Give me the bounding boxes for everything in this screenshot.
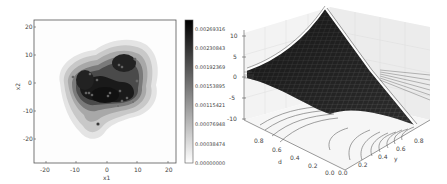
- z-tick-label: -5: [229, 94, 235, 101]
- colorbar-tick-label: 0.00076948: [195, 121, 225, 127]
- colorbar-tick-label: 0.00153895: [195, 83, 225, 89]
- colorbar: [185, 20, 193, 163]
- y-tick-label: 10: [25, 51, 33, 58]
- x-axis-label: x1: [103, 174, 110, 181]
- density-plot: -20 -10 0 10 20 x1 20 10 0 -10 -20 x2 0.…: [0, 0, 230, 184]
- d-tick-label: 0.6: [272, 146, 282, 153]
- y-axis-label: y: [394, 155, 398, 162]
- x-tick-label: 10: [134, 166, 142, 173]
- colorbar-tick-label: 0.00038474: [195, 141, 225, 147]
- d-tick-label: 0.2: [308, 162, 318, 169]
- surface-plot-canvas: [230, 0, 447, 184]
- x-tick-label: -10: [70, 166, 80, 173]
- x-tick-label: 0: [105, 166, 109, 173]
- y-tick-label: 20: [25, 23, 33, 30]
- z-tick-label: -10: [227, 115, 237, 122]
- y-tick-label: 0.4: [378, 153, 388, 160]
- z-tick-label: 0: [233, 73, 237, 80]
- d-axis-label: d: [278, 158, 282, 165]
- y-tick-label: 0.8: [414, 137, 424, 144]
- colorbar-tick-label: 0.00192369: [195, 64, 225, 70]
- y-tick-label: 0.2: [358, 161, 368, 168]
- d-tick-label: 0.4: [290, 154, 300, 161]
- y-tick-label: -10: [23, 107, 33, 114]
- colorbar-tick-label: 0.00000000: [195, 160, 225, 166]
- x-tick-label: 20: [165, 166, 173, 173]
- colorbar-tick-label: 0.00230843: [195, 45, 225, 51]
- d-tick-label: 0.0: [325, 169, 335, 176]
- y-tick-label: 0.0: [338, 169, 348, 176]
- surface-plot: 10 5 0 -5 -10 0.8 0.6 0.4 0.2 0.0 d 0.0 …: [230, 0, 447, 184]
- y-tick-label: -20: [23, 135, 33, 142]
- x-tick-label: -20: [40, 166, 50, 173]
- y-tick-label: 0.6: [396, 145, 406, 152]
- colorbar-tick-label: 0.00115421: [195, 102, 225, 108]
- y-tick-label: 0: [28, 79, 32, 86]
- y-axis-label: x2: [14, 83, 21, 90]
- z-tick-label: 5: [233, 53, 237, 60]
- d-tick-label: 0.8: [254, 137, 264, 144]
- z-tick-label: 10: [230, 32, 238, 39]
- colorbar-tick-label: 0.00269316: [195, 26, 225, 32]
